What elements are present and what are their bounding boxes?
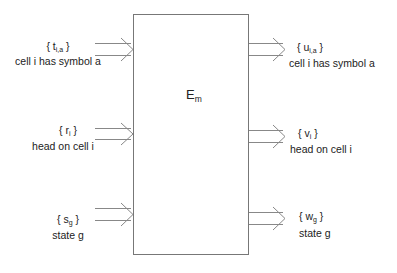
input-1-variable: { ti,a } [46, 40, 69, 56]
output-arrow-2 [249, 125, 285, 148]
output-2-sub: i [310, 133, 312, 140]
input-arrow-3 [95, 203, 133, 226]
output-3-variable: { wg } [299, 210, 323, 226]
input-1-description: cell i has symbol a [15, 55, 101, 67]
box-title-main: E [186, 87, 195, 102]
input-2-description: head on cell i [32, 140, 94, 152]
box-title: Em [186, 87, 202, 104]
box-title-subscript: m [195, 94, 202, 104]
output-arrow-1 [249, 38, 285, 61]
output-1-sub: i,a [309, 47, 316, 54]
output-1-description: cell i has symbol a [289, 57, 375, 69]
output-1-variable: { ui,a } [297, 41, 323, 57]
output-2-description: head on cell i [290, 143, 352, 155]
output-arrow-3 [249, 207, 285, 230]
output-3-description: state g [299, 227, 331, 239]
input-2-variable: { ri } [59, 124, 77, 140]
machine-box [134, 15, 249, 255]
input-3-description: state g [52, 229, 84, 241]
output-3-sub: g [313, 216, 317, 223]
input-arrow-2 [95, 123, 133, 145]
input-3-variable: { sg } [57, 213, 79, 229]
input-1-sub: i,a [56, 46, 63, 53]
output-3-var: w [305, 210, 313, 222]
output-2-variable: { vi } [298, 127, 318, 143]
input-2-sub: i [69, 130, 71, 137]
input-3-sub: g [69, 219, 73, 226]
